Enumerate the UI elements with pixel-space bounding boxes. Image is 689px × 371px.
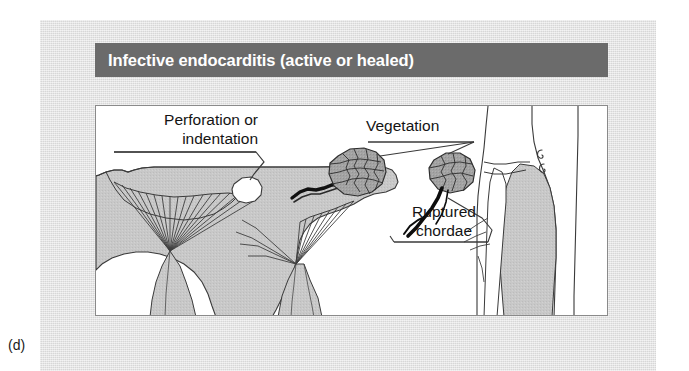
figure-title-bar: Infective endocarditis (active or healed… — [95, 43, 608, 77]
label-ruptured-line2: chordae — [401, 221, 487, 240]
label-vegetation: Vegetation — [366, 116, 439, 135]
label-perforation-line1: Perforation or — [106, 110, 258, 129]
figure-caption: (d) — [8, 337, 25, 353]
page-title: Infective endocarditis (active or healed… — [95, 51, 414, 70]
vegetation-mass-chamber — [429, 153, 475, 193]
illustration-panel: Perforation or indentation Vegetation Ru… — [95, 105, 608, 316]
label-perforation-line2: indentation — [106, 129, 258, 148]
label-ruptured-chordae: Ruptured chordae — [401, 202, 487, 240]
label-perforation: Perforation or indentation — [106, 110, 258, 148]
chamber-muscle-mass — [500, 164, 556, 316]
label-vegetation-line1: Vegetation — [366, 116, 439, 135]
label-ruptured-line1: Ruptured — [401, 202, 487, 221]
chamber-cusp-marks — [538, 150, 546, 172]
chamber-annulus-line — [484, 162, 530, 164]
leader-line-ruptured-stub — [390, 236, 394, 242]
chamber-wall-outer — [574, 106, 578, 316]
figure-root: Infective endocarditis (active or healed… — [0, 0, 689, 371]
